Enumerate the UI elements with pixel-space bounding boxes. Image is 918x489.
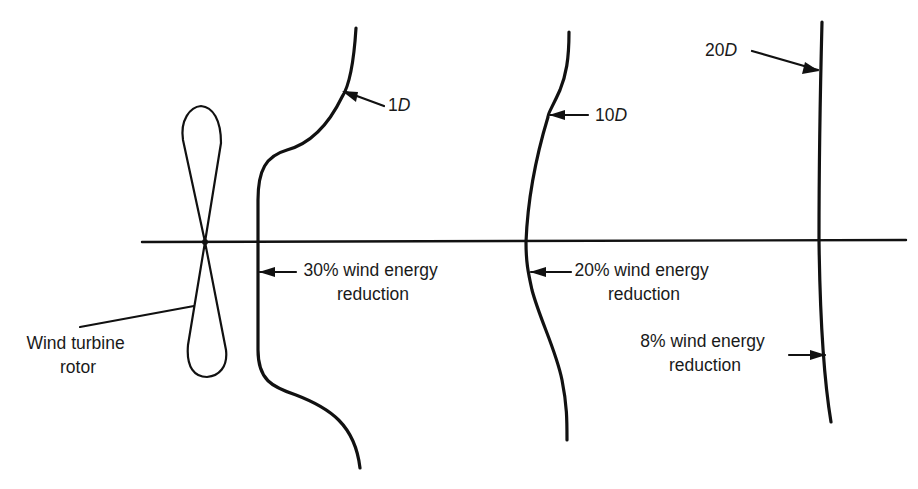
- reduction-label-20d: 8% wind energy reduction: [640, 331, 769, 375]
- callout-8-percent: 8% wind energy reduction: [640, 331, 826, 375]
- callout-30-percent: 30% wind energy reduction: [259, 260, 443, 304]
- wake-diagram: Wind turbine rotor 1D 30% wind energy re…: [0, 0, 918, 489]
- callout-1d-distance: 1D: [342, 91, 411, 115]
- rotor-label-leader: [80, 306, 194, 327]
- callout-20d-distance: 20D: [705, 40, 819, 74]
- distance-label-20d: 20D: [705, 40, 737, 60]
- distance-label-1d: 1D: [388, 95, 411, 115]
- wake-profile-10d: [526, 32, 569, 440]
- reduction-label-1d: 30% wind energy reduction: [303, 260, 442, 304]
- callout-10d-distance: 10D: [549, 105, 627, 125]
- rotor-hub: [202, 239, 208, 245]
- rotor-label: Wind turbine rotor: [26, 333, 129, 377]
- distance-label-10d: 10D: [595, 105, 627, 125]
- reduction-label-10d: 20% wind energy reduction: [574, 260, 713, 304]
- wake-profile-1d: [258, 28, 360, 468]
- wake-profile-20d: [819, 22, 831, 422]
- callout-20-percent: 20% wind energy reduction: [530, 260, 714, 304]
- rotor-upper-blade: [182, 106, 221, 242]
- rotor-lower-blade: [188, 242, 227, 377]
